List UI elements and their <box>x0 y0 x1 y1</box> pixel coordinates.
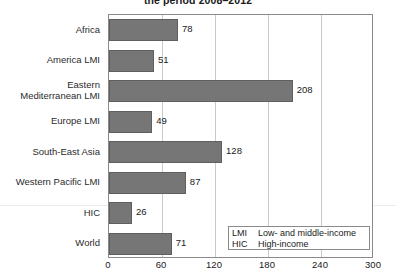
bar-row: 51 <box>109 50 374 72</box>
bar <box>109 80 293 102</box>
x-tick-label: 0 <box>105 259 110 270</box>
bar-value-label: 26 <box>136 206 147 217</box>
bar <box>109 233 172 255</box>
category-axis-labels: AfricaAmerica LMIEastern Mediterranean L… <box>0 14 104 258</box>
bar-row: 26 <box>109 202 374 224</box>
bar-value-label: 208 <box>297 84 313 95</box>
plot-area: 785120849128872671 <box>108 14 373 258</box>
category-label: America LMI <box>0 54 104 65</box>
bar-value-label: 87 <box>190 176 201 187</box>
x-tick-label: 120 <box>206 259 222 270</box>
category-label: Western Pacific LMI <box>0 176 104 187</box>
bar-row: 78 <box>109 19 374 41</box>
x-tick-label: 300 <box>365 259 381 270</box>
category-label: Eastern Mediterranean LMI <box>0 79 104 101</box>
bar-row: 128 <box>109 141 374 163</box>
category-label: World <box>0 237 104 248</box>
legend-item: HIC High-income <box>232 239 369 250</box>
category-label: Europe LMI <box>0 115 104 126</box>
bar-row: 87 <box>109 172 374 194</box>
bar <box>109 172 186 194</box>
category-label: Africa <box>0 24 104 35</box>
bar-row: 208 <box>109 80 374 102</box>
legend-description: High-income <box>258 239 369 250</box>
x-tick-label: 60 <box>156 259 167 270</box>
bar <box>109 111 152 133</box>
bar <box>109 141 222 163</box>
x-tick-label: 240 <box>312 259 328 270</box>
bar-value-label: 128 <box>226 145 242 156</box>
bar-value-label: 51 <box>158 54 169 65</box>
bar-value-label: 49 <box>156 115 167 126</box>
x-tick-label: 180 <box>259 259 275 270</box>
legend-key: LMI <box>232 228 258 239</box>
legend-key: HIC <box>232 239 258 250</box>
bar-value-label: 71 <box>176 237 187 248</box>
x-axis: 060120180240300 <box>108 258 373 274</box>
bar <box>109 19 178 41</box>
legend-description: Low- and middle-income <box>258 228 369 239</box>
bar <box>109 50 154 72</box>
bar-row: 49 <box>109 111 374 133</box>
chart-title: the period 2008–2012 <box>0 0 396 6</box>
category-label: South-East Asia <box>0 146 104 157</box>
legend-item: LMI Low- and middle-income <box>232 228 369 239</box>
bar-chart: the period 2008–2012 AfricaAmerica LMIEa… <box>0 0 396 275</box>
bar <box>109 202 132 224</box>
category-label: HIC <box>0 207 104 218</box>
chart-legend: LMI Low- and middle-income HIC High-inco… <box>228 226 370 250</box>
bar-value-label: 78 <box>182 23 193 34</box>
